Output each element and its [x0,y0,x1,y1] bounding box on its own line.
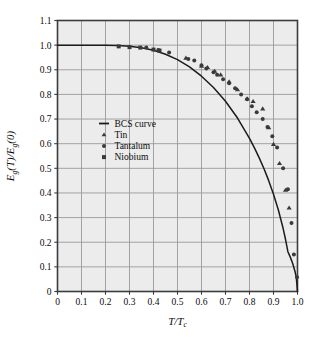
data-point-circle [266,125,270,129]
data-point-circle [290,221,294,225]
data-point-circle [233,86,237,90]
data-point-circle [255,110,259,114]
data-point-square [158,49,162,53]
data-point-circle [275,145,279,149]
data-point-circle [167,51,171,55]
x-tick-label: 0 [55,297,60,307]
data-point-circle [281,166,285,170]
chart-canvas: 00.10.20.30.40.50.60.70.80.91.0 00.10.20… [0,0,319,340]
data-point-circle [295,275,299,279]
legend-label: Tin [115,130,128,140]
y-tick-label: 0.2 [40,238,52,248]
data-point-circle [200,63,204,67]
data-point-circle [192,58,196,62]
data-point-circle [186,57,190,61]
data-point-circle [292,253,296,257]
data-point-circle [144,46,148,50]
legend-label: Tantalum [115,141,151,151]
y-tick-label: 0.7 [40,114,52,124]
y-tick-label: 0.3 [40,213,52,223]
y-tick-label: 0.5 [40,164,52,174]
y-axis-title: Eg(T)/Eg(0) [4,131,19,183]
x-tick-label: 0.9 [268,297,280,307]
data-point-circle [212,70,216,74]
x-tick-label: 0.6 [196,297,208,307]
y-tick-label: 1.1 [40,16,52,26]
data-point-circle [204,67,208,71]
x-axis-tick-labels: 00.10.20.30.40.50.60.70.80.91.0 [55,297,304,307]
legend-marker-square [102,155,106,159]
y-tick-label: 0.1 [40,262,52,272]
data-point-square [117,44,121,48]
y-tick-label: 0.9 [40,65,52,75]
data-point-square [128,45,132,49]
y-tick-label: 0 [47,287,52,297]
x-tick-label: 1.0 [292,297,304,307]
data-point-square [152,48,156,52]
y-axis-tick-labels: 00.10.20.30.40.50.60.70.80.91.01.1 [40,16,52,297]
data-point-circle [215,73,219,77]
y-tick-label: 0.4 [40,188,52,198]
x-tick-label: 0.1 [76,297,88,307]
y-tick-label: 0.6 [40,139,52,149]
x-tick-label: 0.4 [148,297,160,307]
data-point-circle [261,117,265,121]
data-point-circle [227,81,231,85]
x-axis-title-text: T/Tc [168,315,187,330]
data-point-circle [245,97,249,101]
x-tick-label: 0.2 [100,297,112,307]
x-tick-label: 0.5 [172,297,184,307]
data-point-circle [221,77,225,81]
legend-label: BCS curve [115,119,156,129]
legend-label: Niobium [115,152,149,162]
data-point-circle [239,92,243,96]
y-tick-label: 0.8 [40,90,52,100]
data-point-square [138,46,142,50]
data-point-circle [250,104,254,108]
x-tick-label: 0.7 [220,297,232,307]
bcs-energy-gap-figure: 00.10.20.30.40.50.60.70.80.91.0 00.10.20… [0,0,319,340]
data-point-circle [270,134,274,138]
x-tick-label: 0.3 [124,297,136,307]
x-axis-title: T/Tc [168,315,187,330]
y-axis-title-text: Eg(T)/Eg(0) [4,131,19,183]
data-point-circle [286,187,290,191]
legend-marker-circle [102,144,106,148]
y-tick-label: 1.0 [40,41,52,51]
x-tick-label: 0.8 [244,297,256,307]
